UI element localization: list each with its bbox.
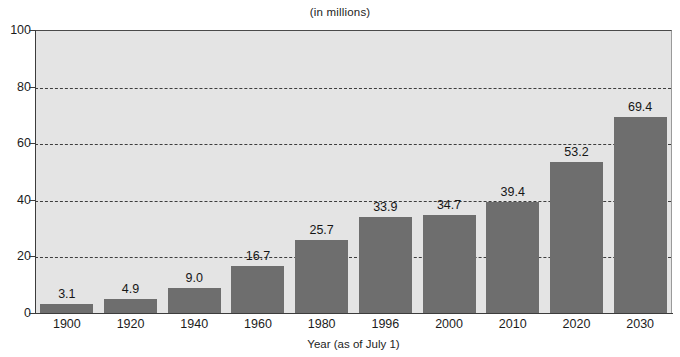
- bar[interactable]: [550, 162, 603, 313]
- y-axis-tick-mark: [29, 256, 36, 257]
- x-axis-tick-label: 2010: [481, 317, 545, 331]
- y-axis-line: [35, 30, 36, 314]
- bar-group[interactable]: 39.4: [486, 31, 539, 313]
- y-axis-tick-mark: [29, 30, 36, 31]
- y-axis-tick-mark: [29, 200, 36, 201]
- bar-group[interactable]: 69.4: [614, 31, 667, 313]
- x-axis-tick-label: 1920: [99, 317, 163, 331]
- bar-value-label: 3.1: [58, 287, 75, 301]
- bar[interactable]: [423, 215, 476, 313]
- bar-group[interactable]: 33.9: [359, 31, 412, 313]
- bar-group[interactable]: 53.2: [550, 31, 603, 313]
- bar-value-label: 33.9: [373, 200, 397, 214]
- bar-group[interactable]: 4.9: [104, 31, 157, 313]
- bar-value-label: 9.0: [186, 271, 203, 285]
- bar[interactable]: [359, 217, 412, 313]
- x-axis-tick-label: 1980: [290, 317, 354, 331]
- y-axis-tick-mark: [29, 143, 36, 144]
- y-axis-tick-label: 100: [2, 23, 31, 37]
- y-axis-tick-label: 40: [2, 193, 31, 207]
- x-axis-line: [35, 313, 673, 314]
- x-axis-tick-label: 2030: [608, 317, 672, 331]
- y-axis-tick-mark: [29, 313, 36, 314]
- x-axis-tick-label: 1960: [226, 317, 290, 331]
- bar-value-label: 69.4: [628, 100, 652, 114]
- bar-chart-figure: (in millions) 3.14.99.016.725.733.934.73…: [0, 0, 680, 357]
- y-axis-tick-label: 20: [2, 249, 31, 263]
- y-axis-tick-label: 0: [2, 306, 31, 320]
- x-axis-tick-labels: 1900192019401960198019962000201020202030: [35, 317, 672, 337]
- bar-value-label: 16.7: [246, 249, 270, 263]
- bars-container: 3.14.99.016.725.733.934.739.453.269.4: [35, 31, 671, 313]
- bar-group[interactable]: 3.1: [40, 31, 93, 313]
- bar-group[interactable]: 16.7: [231, 31, 284, 313]
- bar-value-label: 25.7: [309, 223, 333, 237]
- y-axis-tick-label: 60: [2, 136, 31, 150]
- bar-value-label: 4.9: [122, 282, 139, 296]
- bar-value-label: 34.7: [437, 198, 461, 212]
- chart-title: (in millions): [0, 6, 680, 18]
- bar-group[interactable]: 9.0: [168, 31, 221, 313]
- bar[interactable]: [486, 202, 539, 314]
- y-axis-tick-label: 80: [2, 80, 31, 94]
- y-axis-tick-labels: 020406080100: [0, 0, 31, 357]
- x-axis-tick-label: 1996: [354, 317, 418, 331]
- bar[interactable]: [614, 117, 667, 313]
- y-axis-tick-mark: [29, 87, 36, 88]
- bar-value-label: 53.2: [564, 145, 588, 159]
- plot-area: 3.14.99.016.725.733.934.739.453.269.4: [35, 30, 672, 313]
- x-axis-tick-label: 2000: [417, 317, 481, 331]
- bar-value-label: 39.4: [501, 185, 525, 199]
- x-axis-tick-label: 2020: [545, 317, 609, 331]
- bar[interactable]: [40, 304, 93, 313]
- bar[interactable]: [168, 288, 221, 313]
- bar[interactable]: [295, 240, 348, 313]
- bar[interactable]: [231, 266, 284, 313]
- x-axis-tick-label: 1940: [162, 317, 226, 331]
- x-axis-tick-label: 1900: [35, 317, 99, 331]
- bar-group[interactable]: 34.7: [423, 31, 476, 313]
- bar-group[interactable]: 25.7: [295, 31, 348, 313]
- x-axis-title: Year (as of July 1): [35, 338, 672, 350]
- bar[interactable]: [104, 299, 157, 313]
